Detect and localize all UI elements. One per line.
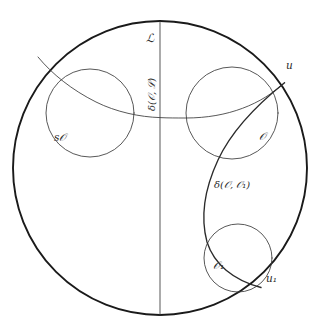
label-distance-O-L: δ(𝒪, ℒ)	[147, 78, 157, 111]
horoball-circle-sO	[46, 69, 134, 157]
label-point-u: u	[286, 60, 293, 71]
label-horoball-O1: 𝒪₁	[213, 260, 224, 271]
label-horoball-O: 𝒪	[259, 131, 266, 142]
horocycle-arc-through-u	[38, 57, 285, 118]
label-distance-O-O1: δ(𝒪, 𝒪₁)	[214, 180, 250, 190]
diagram-svg	[0, 0, 320, 335]
horoball-circle-O	[186, 67, 278, 159]
label-line-L: ℒ	[146, 33, 154, 45]
figure-canvas: ℒ u s𝒪 𝒪 δ(𝒪, ℒ) δ(𝒪, 𝒪₁) 𝒪₁ u₁	[0, 0, 320, 335]
label-horoball-sO: s𝒪	[54, 132, 66, 143]
label-point-u1: u₁	[266, 273, 277, 284]
